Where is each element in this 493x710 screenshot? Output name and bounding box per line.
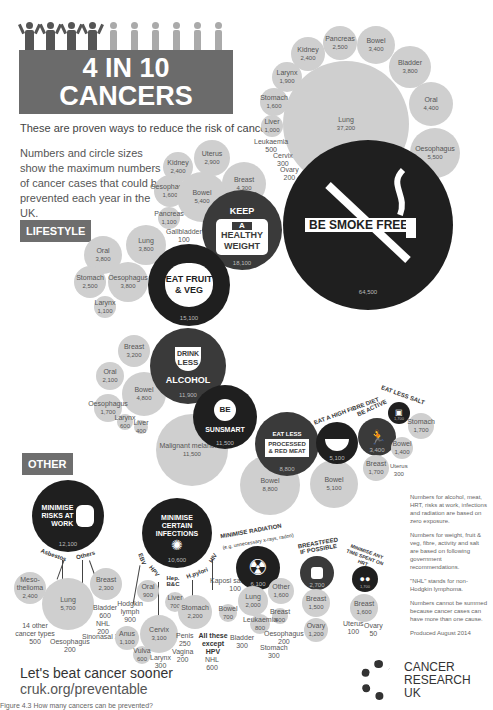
connector-line <box>82 560 83 584</box>
gas-mask-icon <box>76 505 94 527</box>
no-smoking-icon <box>308 165 418 265</box>
wine-glass-icon: DRINK LESS <box>175 347 201 371</box>
person-icon <box>104 22 123 50</box>
label-radiation-stomach: Stomach300 <box>260 644 288 660</box>
bubble-fruit-larynx: Larynx1,100 <box>94 296 116 318</box>
pills-icon: ●● <box>360 575 371 583</box>
label-hrt-ovary: Ovary50 <box>364 622 383 638</box>
person-icon-highlighted <box>83 22 102 50</box>
work-total: 12,100 <box>32 540 104 548</box>
factor-be-sunsmart: BE SUNSMART 11,500 <box>193 385 257 449</box>
label-radiation-bladder: Bladder300 <box>230 634 254 650</box>
bubble-alcohol-breast: Breast3,200 <box>118 335 150 367</box>
person-icon <box>146 22 165 50</box>
label-work-other-types: 14 other cancer types500 <box>14 622 56 646</box>
mother-baby-icon <box>311 567 323 579</box>
description-text: Numbers and circle sizes show the maximu… <box>20 146 168 221</box>
bubble-smoke-oral: Oral4,400 <box>409 82 453 126</box>
factor-breastfeed: 2,700 <box>300 556 334 590</box>
factor-eat-fruit-veg: EAT FRUIT & VEG 15,100 <box>148 244 230 326</box>
bubble-work-breast: Breast2,300 <box>90 568 122 600</box>
bubble-fibre-bowel: Bowel5,100 <box>310 460 358 508</box>
bubble-smoke-bladder: Bladder3,800 <box>389 46 431 88</box>
fruit-total: 15,100 <box>148 314 230 322</box>
bubble-fruit-stomach: Stomach2,500 <box>74 266 106 298</box>
intro-text: These are proven ways to reduce the risk… <box>20 122 273 134</box>
logo-line2: RESEARCH <box>404 674 471 687</box>
bubble-work-mesothelioma: Meso-thelioma2,400 <box>14 572 46 604</box>
fibre-total: 5,100 <box>316 454 358 462</box>
scale-icon: A HEALTHY WEIGHT <box>216 219 268 255</box>
infections-hpv-label: HPV <box>148 564 161 577</box>
factor-eat-less-processed-red-meat: EAT LESS PROCESSED & RED MEAT 8,800 <box>255 412 319 476</box>
sun-total: 11,500 <box>193 439 257 447</box>
label-infections-hodgkin: Hodgkin lymph900 <box>117 600 143 624</box>
bubble-radiation-other: Other1,600 <box>268 578 294 604</box>
bubble-infections-vulva: Vulva600 <box>133 646 151 664</box>
figure-caption: Figure 4.3 How many cancers can be preve… <box>0 702 153 709</box>
burger-icon: PROCESSED & RED MEAT <box>265 439 309 457</box>
logo-line3: UK <box>404 687 471 700</box>
bowl-icon <box>325 439 349 451</box>
cigarette-tip-icon <box>406 218 416 238</box>
footer-url[interactable]: cruk.org/preventable <box>20 681 148 697</box>
smoke-free-label: BE SMOKE FREE <box>305 218 412 232</box>
notes: Numbers for alcohol, meat, HRT, risks at… <box>410 493 488 643</box>
factor-minimise-risks-at-work: MINIMISERISKS ATWORK 12,100 <box>32 480 104 552</box>
apple-icon: EAT FRUIT & VEG <box>165 263 213 307</box>
bubble-alcohol-oral: Oral2,100 <box>96 362 124 390</box>
bubble-infections-stomach: Stomach2,200 <box>178 595 212 629</box>
section-label-other: OTHER <box>22 453 73 475</box>
bubble-smoke-pancreas: Pancreas2,500 <box>323 26 357 60</box>
factor-be-smoke-free: BE SMOKE FREE 64,500 <box>283 140 453 310</box>
label-hrt-uterus: Uterus100 <box>343 620 364 636</box>
bubble-radiation-bowel: Bowel700 <box>219 604 237 622</box>
person-icon-highlighted <box>20 22 39 50</box>
note: Numbers for weight, fruit & veg, fibre, … <box>410 531 488 571</box>
factor-minimise-certain-infections: MINIMISECERTAININFECTIONS ✺ 10,600 <box>142 498 212 568</box>
infections-total: 10,600 <box>142 556 212 564</box>
note: Numbers for alcohol, meat, HRT, risks at… <box>410 493 488 525</box>
radiation-icon: ☢ <box>248 557 268 579</box>
logo-line1: CANCER <box>404 661 471 674</box>
factor-minimise-hrt: ●● 1,700 <box>352 566 378 592</box>
person-icon <box>209 22 228 50</box>
infections-hepbc-label: Hep. B&C <box>164 575 182 587</box>
bubble-active-breast: Breast1,700 <box>363 455 389 481</box>
factor-eat-high-fibre-diet: 5,100 <box>316 422 358 464</box>
connector-line <box>57 560 65 579</box>
label-infections-nhl: NHL600 <box>205 656 219 672</box>
label-active-uterus: Uterus300 <box>390 462 408 478</box>
produced-date: Produced August 2014 <box>410 629 488 637</box>
label-infections-vagina: Vagina200 <box>172 648 193 664</box>
person-icon-highlighted <box>41 22 60 50</box>
label-infections-all-except-hpv: All these except HPV <box>198 632 228 656</box>
tagline: Let's beat cancer sooner <box>20 665 173 681</box>
label-weight-gallbladder: Gallbladder100 <box>166 228 202 244</box>
alcohol-label: ALCOHOL <box>166 375 211 386</box>
weight-keep: KEEP <box>230 206 255 217</box>
bubble-radiation-lung: Lung2,000 <box>238 586 268 616</box>
title-line1: 4 IN 10 CANCERS <box>19 50 233 110</box>
person-icon <box>125 22 144 50</box>
bubble-alcohol-liver: Liver400 <box>134 420 148 434</box>
cruk-c-logo-icon <box>360 660 398 700</box>
bubble-smoke-liver: Liver1,000 <box>261 115 283 137</box>
work-others-label: Others <box>76 550 96 561</box>
infections-hpylori-label: H.pylori <box>186 566 209 579</box>
page-title: 4 IN 10 CANCERS CAN BE PREVENTED <box>19 50 233 114</box>
hrt-total: 1,700 <box>352 583 378 591</box>
bubble-fruit-oesophagus: Oesophagus3,800 <box>108 262 148 302</box>
bubble-hrt-breast: Breast1,600 <box>350 594 378 622</box>
meat-total: 8,800 <box>255 465 319 473</box>
cruk-logo: CANCER RESEARCH UK <box>360 660 471 700</box>
running-person-icon: 🏃 <box>369 433 386 441</box>
person-icon <box>167 22 186 50</box>
label-work-bladder: Bladder600 <box>93 604 117 620</box>
person-icon <box>188 22 207 50</box>
section-label-lifestyle: LIFESTYLE <box>20 220 91 242</box>
bubble-alcohol-larynx: Larynx600 <box>117 414 133 430</box>
people-icons <box>20 22 228 50</box>
note: "NHL" stands for non-Hodgkin lymphoma. <box>410 577 488 593</box>
smoke-total: 64,500 <box>283 288 453 296</box>
